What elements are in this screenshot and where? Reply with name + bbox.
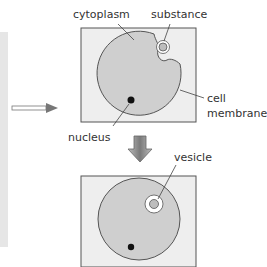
substance-particle xyxy=(159,43,167,51)
endocytosis-diagram xyxy=(0,0,267,267)
stage-before xyxy=(81,24,204,126)
vesicle-substance xyxy=(150,200,159,209)
label-cell-membrane-1: cell xyxy=(207,92,226,105)
label-cytoplasm: cytoplasm xyxy=(73,8,130,21)
label-substance: substance xyxy=(151,8,207,21)
label-cell-membrane-2: membrane xyxy=(207,107,267,120)
down-arrow-icon xyxy=(128,136,152,162)
label-nucleus: nucleus xyxy=(68,131,111,144)
cell-after xyxy=(98,178,180,260)
right-arrow-icon xyxy=(12,103,58,113)
nucleus-dot-after xyxy=(128,244,134,250)
label-vesicle: vesicle xyxy=(174,151,212,164)
stage-after xyxy=(81,165,196,267)
nucleus-dot xyxy=(128,97,135,104)
